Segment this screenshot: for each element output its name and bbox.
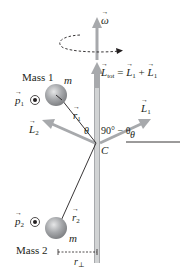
p1-label: p1 — [15, 95, 24, 108]
L1-subscript: 1 — [147, 108, 151, 116]
L-tot-subscript: tot — [107, 72, 114, 80]
plus-sign: + — [136, 66, 148, 78]
r-perp-dimension — [58, 249, 97, 255]
r2-symbol: r — [72, 212, 76, 223]
L2-symbol: L — [29, 124, 35, 135]
L1-symbol: L — [141, 103, 147, 114]
mass2-m-label: m — [69, 233, 77, 244]
r-perp-subscript: ⊥ — [78, 261, 85, 269]
theta-right-label: θ — [130, 130, 135, 140]
r2-label: r2 — [72, 212, 80, 225]
p2-symbol: p — [15, 216, 21, 227]
angle-complement-label: 90° − θ — [101, 126, 130, 136]
p1-subscript: 1 — [21, 100, 25, 108]
p1-out-of-page-icon — [31, 96, 40, 105]
r2-subscript: 2 — [76, 217, 80, 225]
rotating-dumbbell-diagram — [0, 0, 192, 277]
center-C-label: C — [101, 145, 108, 156]
L2-subscript: 2 — [35, 129, 39, 137]
L-tot-symbol: L — [101, 67, 107, 78]
L-term-2-subscript: 1 — [154, 72, 158, 80]
L-tot-equation: Ltot = L1 + L1 — [101, 67, 157, 80]
mass2-label: Mass 2 — [16, 245, 47, 256]
L2-label: L2 — [29, 124, 39, 137]
L-term-2: L — [148, 67, 154, 78]
r1-label: r1 — [73, 110, 81, 123]
omega-symbol: ω — [101, 15, 109, 26]
p2-label: p2 — [15, 216, 24, 229]
theta-left-label: θ — [84, 126, 89, 136]
p2-subscript: 2 — [21, 221, 25, 229]
L1-label: L1 — [141, 103, 151, 116]
equals-sign: = — [115, 66, 127, 78]
omega-label: ω — [101, 15, 109, 26]
r1-symbol: r — [73, 110, 77, 121]
r1-subscript: 1 — [77, 115, 81, 123]
p1-symbol: p — [15, 95, 21, 106]
mass1-label: Mass 1 — [22, 72, 53, 83]
r-perp-label: r⊥ — [74, 257, 85, 269]
mass2-ball — [45, 217, 67, 239]
rotation-axis-rod — [94, 70, 100, 263]
rotation-direction-ellipse — [60, 35, 123, 54]
p2-out-of-page-icon — [31, 218, 40, 227]
L1-term: L — [126, 67, 132, 78]
mass1-m-label: m — [64, 75, 72, 86]
